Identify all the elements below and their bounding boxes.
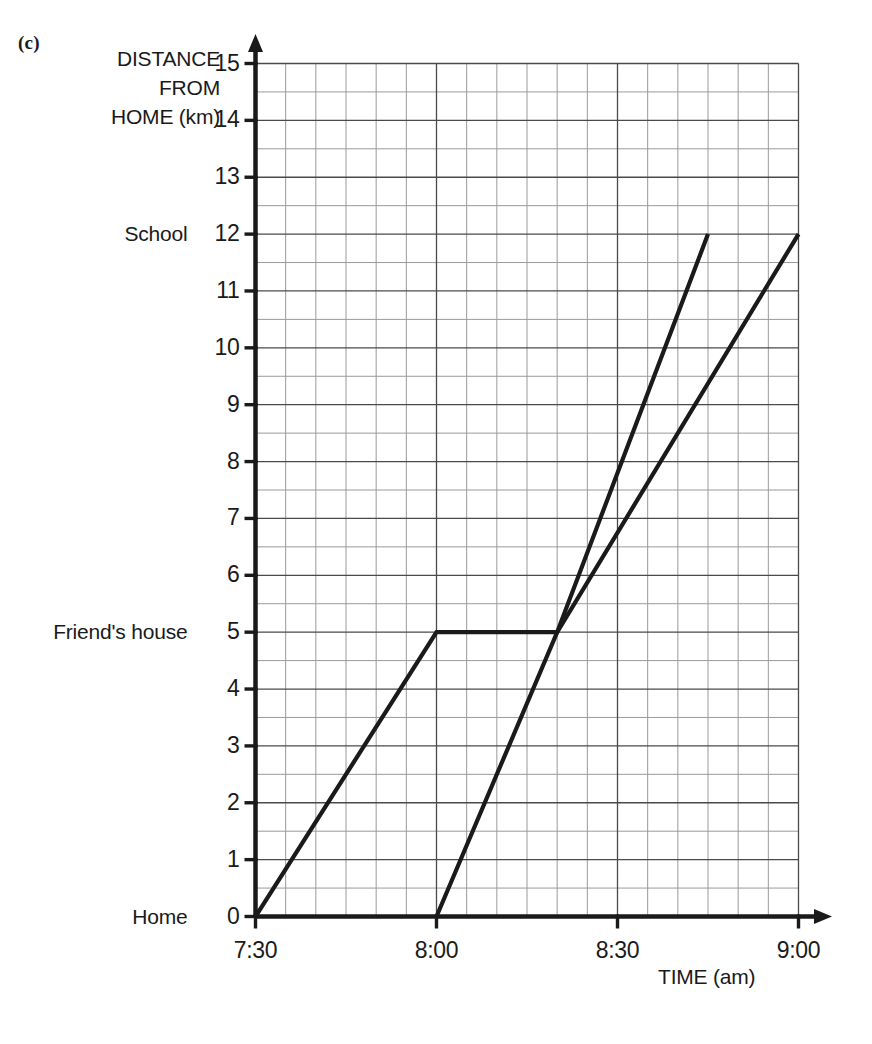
x-axis-arrowhead bbox=[814, 909, 832, 924]
y-axis-arrowhead bbox=[248, 34, 263, 52]
axis-tick-marks bbox=[245, 64, 799, 929]
plot-canvas bbox=[0, 0, 872, 1044]
distance-time-graph-figure: (c) DISTANCE FROM HOME (km) 012345678910… bbox=[0, 0, 872, 1044]
x-axis-title: TIME (am) bbox=[658, 966, 755, 987]
